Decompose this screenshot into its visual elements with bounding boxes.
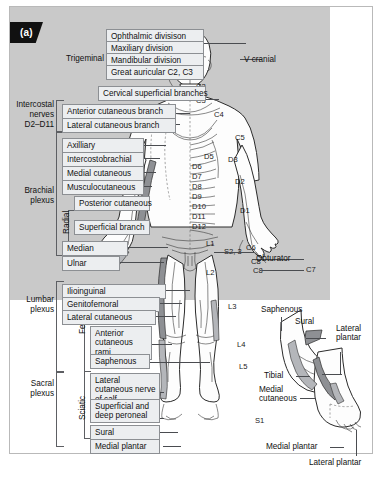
label-musculocutaneous: Musculocutaneous (62, 180, 144, 195)
leader-foot-lateral-plantar-bottom (356, 430, 357, 456)
dermatome-c5: C5 (235, 133, 245, 142)
group-sacral-line2: plexus (4, 389, 54, 399)
label-lateral-cutaneous: Lateral cutaneous (62, 310, 156, 325)
leader-foot-saphenous-vert (281, 317, 282, 331)
label-lateral-cutaneous-branch: Lateral cutaneous branch (62, 118, 176, 133)
dermatome-d5: D5 (204, 152, 214, 161)
dermatome-s1: S1 (255, 416, 264, 425)
label-saphenous: Saphenous (90, 354, 150, 369)
label-intercostobrachial: Intercostobrachial (62, 152, 144, 167)
dermatome-d6: D6 (192, 162, 202, 171)
group-brachial-line1: Brachial (4, 186, 54, 196)
leader-foot-lateral-plantar (340, 352, 341, 374)
group-sciatic: Sciatic (78, 396, 87, 420)
group-intercostal-line1: Intercostal (2, 100, 54, 110)
group-trigeminal: Trigeminal (56, 54, 104, 64)
dermatome-d8: D8 (192, 182, 202, 191)
label-foot-lateral-plantar-bottom: Lateral plantar (305, 456, 364, 469)
group-intercostal-line3: D2–D11 (2, 120, 54, 130)
dermatome-l1: L1 (206, 239, 214, 248)
dermatome-d10: D10 (192, 202, 206, 211)
dermatome-c4: C4 (214, 110, 224, 119)
bracket-sacral (56, 371, 64, 447)
dermatome-d3: D3 (228, 155, 238, 164)
dermatome-d9: D9 (192, 192, 202, 201)
group-sacral-line1: Sacral (4, 379, 54, 389)
label-superficial-branch: Superficial branch (74, 220, 150, 235)
leader-sural (160, 432, 178, 433)
leader-c8-hand (262, 270, 304, 271)
label-sural: Sural (90, 425, 160, 440)
group-radial: Radial (62, 211, 71, 234)
leader-cervical (205, 99, 219, 100)
label-superficial-and-deep-peroneal: Superficial and deep peroneal (90, 399, 160, 423)
leader-foot-tibial (296, 376, 310, 377)
group-brachial-line2: plexus (4, 196, 54, 206)
dermatome-l4: L4 (237, 340, 245, 349)
label-foot-medial-plantar: Medial plantar (262, 440, 320, 453)
label-cervical-superficial-branches: Cervical superficial branches (98, 86, 206, 101)
figure-white-right-area (330, 7, 372, 445)
label-foot-saphenous: Saphenous (257, 303, 305, 316)
leader-foot-lateral-plantar-h (322, 374, 342, 375)
dermatome-l5: L5 (239, 362, 247, 371)
leader-s23 (214, 252, 254, 253)
label-foot-medial-cutaneous: Medial cutaneous (255, 383, 301, 405)
leader-medial-plantar (163, 446, 181, 447)
dermatome-d7: D7 (192, 172, 202, 181)
label-medial-plantar: Medial plantar (90, 439, 160, 454)
label-axillary: Axilliary (62, 138, 144, 153)
label-posterior-cutaneous: Posterior cutaneous (74, 196, 150, 211)
leader-anterior-rami (152, 344, 172, 345)
leader-median (128, 247, 168, 248)
dermatome-c7: C7 (306, 265, 316, 274)
dermatome-l2: L2 (206, 268, 214, 277)
leader-axillary (144, 145, 166, 146)
label-anterior-cutaneous-branch: Anterior cutaneous branch (62, 104, 176, 119)
anatomical-figure: (a) Trigeminal Intercostal nerves D2–D11… (0, 0, 382, 491)
label-foot-lateral-plantar: Lateral plantar (332, 322, 374, 344)
leader-ophthalmic (204, 43, 246, 44)
leader-anterior-branch (176, 113, 190, 114)
leader-genitofemoral (160, 303, 182, 304)
label-v-cranial: V cranial (240, 53, 279, 66)
label-ulnar: Ulnar (62, 256, 120, 271)
label-great-auricular: Great auricular C2, C3 (106, 65, 204, 80)
leader-saphenous (150, 362, 210, 363)
label-foot-sural: Sural (291, 315, 317, 328)
dermatome-d12: D12 (192, 222, 206, 231)
dermatome-d1: D1 (240, 206, 250, 215)
label-medial-cutaneous: Medial cutaneous (62, 166, 144, 181)
label-obturator: Obturator (252, 252, 294, 265)
leader-foot-medial-cut (300, 398, 316, 399)
leader-foot-sural (306, 338, 326, 339)
label-foot-tibial: Tibial (260, 369, 286, 382)
dermatome-l3: L3 (228, 302, 236, 311)
leader-foot-medial-plantar (330, 447, 344, 448)
group-lumbar-line2: plexus (4, 305, 54, 315)
group-lumbar-line1: Lumbar (4, 295, 54, 305)
leader-ulnar (120, 262, 164, 263)
group-intercostal-line2: nerves (2, 110, 54, 120)
dermatome-d11: D11 (192, 212, 205, 221)
label-median: Median (62, 241, 128, 256)
dermatome-c6: C6 (246, 243, 256, 252)
leader-ilioinguinal (166, 290, 190, 291)
dermatome-d2: D2 (235, 177, 245, 186)
leader-lateral-cutaneous (156, 316, 176, 317)
